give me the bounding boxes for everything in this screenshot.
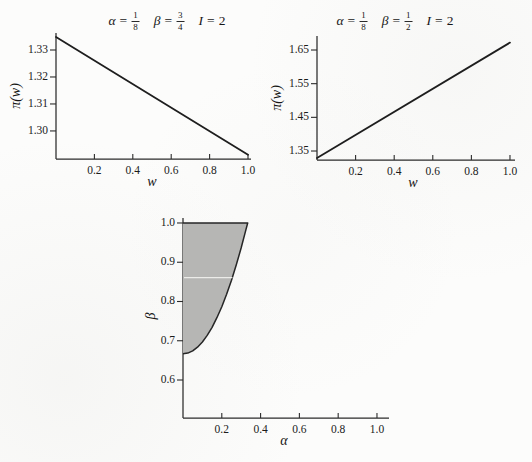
bottom-shaded-region [183,223,248,354]
top-left-title: α=18β=34I=2 [109,10,226,32]
top-right-x-tick-label: 0.4 [387,166,401,178]
parameter-value: 2 [219,14,226,28]
fraction-numerator: 1 [359,11,368,22]
top-right-profit-line [317,43,510,159]
top-right-title-param-1: β=12 [382,10,413,32]
fraction-denominator: 4 [178,22,183,32]
top-right-x-axis-label: w [408,176,417,190]
fraction: 18 [131,11,140,33]
top-left-x-tick-label: 0.6 [164,165,178,177]
bottom-x-tick-label: 0.4 [253,424,267,436]
equals-sign: = [392,14,400,28]
top-left-x-axis-label: w [147,175,156,189]
parameter-symbol: β [154,14,161,28]
bottom-y-tick-label: 1.0 [161,217,175,229]
bottom-x-tick-label: 0.8 [331,424,345,436]
figure-canvas: 0.20.40.60.81.01.301.311.321.33wπ(w)α=18… [0,0,532,462]
top-right-x-tick-label: 0.8 [464,166,478,178]
top-right-title: α=18β=12I=2 [337,10,454,32]
top-left-title-param-2: I=2 [199,14,226,28]
parameter-symbol: α [109,14,116,28]
top-right-y-tick-label: 1.55 [289,78,309,90]
parameter-symbol: I [427,14,432,28]
top-right-x-tick-label: 0.6 [426,166,440,178]
fraction-numerator: 1 [404,11,413,22]
equals-sign: = [435,14,443,28]
top-right-title-param-2: I=2 [427,14,454,28]
bottom-x-tick-label: 0.6 [292,424,306,436]
top-left-x-tick-label: 0.8 [202,165,216,177]
equals-sign: = [164,14,172,28]
top-left-y-tick-label: 1.32 [28,71,48,83]
parameter-symbol: β [382,14,389,28]
fraction: 12 [404,11,413,33]
plots-svg [0,0,532,462]
top-left-y-axis-label: π(w) [9,83,23,109]
bottom-y-tick-label: 0.6 [161,374,175,386]
equals-sign: = [207,14,215,28]
top-right-title-param-0: α=18 [337,10,368,32]
parameter-symbol: α [337,14,344,28]
top-right-y-tick-label: 1.65 [289,44,309,56]
bottom-y-axis-label: β [144,313,158,320]
bottom-x-axis-label: α [280,434,287,448]
top-left-title-param-1: β=34 [154,10,185,32]
bottom-y-tick-label: 0.7 [161,335,175,347]
parameter-value: 2 [447,14,454,28]
bottom-y-tick-label: 0.9 [161,256,175,268]
top-left-title-param-0: α=18 [109,10,140,32]
fraction-denominator: 8 [133,22,138,32]
top-right-y-tick-label: 1.35 [289,145,309,157]
top-left-y-tick-label: 1.31 [28,98,48,110]
top-right-y-tick-label: 1.45 [289,112,309,124]
top-right-x-tick-label: 1.0 [503,166,517,178]
bottom-x-tick-label: 1.0 [370,424,384,436]
equals-sign: = [120,14,128,28]
top-left-x-tick-label: 0.4 [126,165,140,177]
top-right-x-tick-label: 0.2 [348,166,362,178]
fraction-numerator: 3 [176,11,185,22]
fraction-denominator: 2 [406,22,411,32]
top-right-y-axis-label: π(w) [270,85,284,111]
fraction-denominator: 8 [361,22,366,32]
top-left-x-tick-label: 1.0 [241,165,255,177]
equals-sign: = [348,14,356,28]
top-left-y-tick-label: 1.33 [28,44,48,56]
bottom-y-tick-label: 0.8 [161,296,175,308]
parameter-symbol: I [199,14,204,28]
top-left-profit-line [56,37,248,155]
top-left-y-tick-label: 1.30 [28,125,48,137]
top-left-x-tick-label: 0.2 [87,165,101,177]
bottom-x-tick-label: 0.2 [215,424,229,436]
fraction-numerator: 1 [131,11,140,22]
fraction: 18 [359,11,368,33]
fraction: 34 [176,11,185,33]
